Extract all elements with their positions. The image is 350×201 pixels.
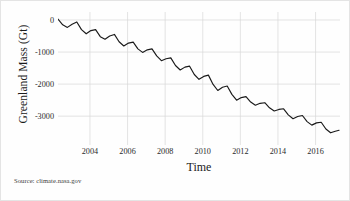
y-axis-tick-labels: 0-1000-2000-3000: [0, 12, 54, 145]
x-tick-label: 2010: [195, 147, 211, 156]
y-tick-label: 0: [50, 16, 54, 25]
y-tick-label: -3000: [35, 112, 54, 121]
x-axis-title: Time: [58, 160, 340, 175]
source-note: Source: climate.nasa.gov: [14, 177, 81, 184]
x-axis-tick-labels: 2004200620082010201220142016: [58, 147, 340, 161]
line-chart-svg: [58, 12, 340, 145]
x-tick-label: 2006: [119, 147, 135, 156]
y-tick-label: -2000: [35, 80, 54, 89]
x-tick-label: 2012: [232, 147, 248, 156]
x-tick-label: 2014: [270, 147, 286, 156]
plot-area: [58, 12, 340, 145]
x-tick-label: 2008: [157, 147, 173, 156]
x-tick-label: 2004: [82, 147, 98, 156]
chart-figure: Greenland Mass (Gt) 0-1000-2000-3000 200…: [0, 0, 350, 201]
y-tick-label: -1000: [35, 48, 54, 57]
x-tick-label: 2016: [307, 147, 323, 156]
data-line-greenland-mass: [58, 19, 339, 133]
